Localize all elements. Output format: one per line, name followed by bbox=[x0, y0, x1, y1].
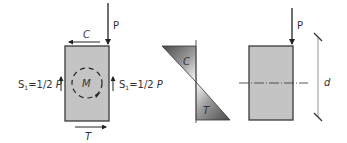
cross-section: P d bbox=[239, 8, 331, 121]
load-label: P bbox=[113, 20, 119, 31]
stress-distribution-diagram: C T bbox=[162, 40, 230, 123]
shear-left-label: S1=1/2 P bbox=[18, 79, 63, 91]
depth-label: d bbox=[324, 77, 331, 88]
stress-tension-label: T bbox=[203, 105, 210, 116]
beam-diagram: P C T M S1=1/2 P S1=1/2 P C T P bbox=[0, 0, 347, 143]
shear-right-label: S1=1/2 P bbox=[119, 79, 164, 91]
moment-label: M bbox=[82, 78, 91, 89]
compression-stress-triangle bbox=[162, 46, 196, 82]
compression-label: C bbox=[83, 29, 90, 40]
stress-compression-label: C bbox=[183, 56, 190, 67]
right-load-label: P bbox=[297, 20, 303, 31]
tension-label: T bbox=[85, 131, 92, 142]
tension-stress-triangle bbox=[196, 82, 230, 120]
free-body-section: P C T M S1=1/2 P S1=1/2 P bbox=[18, 3, 164, 142]
